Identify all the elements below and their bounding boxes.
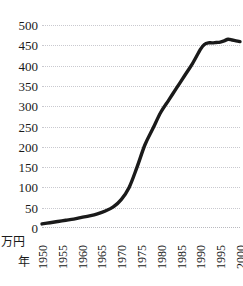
y-tick-label: 400 xyxy=(0,60,38,73)
plot-area xyxy=(42,25,240,228)
x-tick-label: 2000 xyxy=(233,231,243,275)
x-tick-label: 1970 xyxy=(114,231,128,275)
y-tick-label: 200 xyxy=(0,141,38,154)
x-tick-label: 1985 xyxy=(174,231,188,275)
figure-container: 500450400350300250200150100500 195019551… xyxy=(0,0,243,286)
x-tick-label: 1995 xyxy=(213,231,227,275)
x-tick-label: 1955 xyxy=(55,231,69,275)
y-tick-label: 450 xyxy=(0,39,38,52)
x-tick-label: 1975 xyxy=(134,231,148,275)
y-tick-label: 500 xyxy=(0,19,38,32)
x-tick-label: 1950 xyxy=(35,231,49,275)
x-axis-unit-label: 年 xyxy=(18,256,30,268)
x-tick-label: 1960 xyxy=(75,231,89,275)
y-tick-label: 100 xyxy=(0,181,38,194)
y-tick-label: 300 xyxy=(0,100,38,113)
x-tick-label: 1965 xyxy=(94,231,108,275)
data-series-line xyxy=(42,25,240,228)
x-tick-label: 1980 xyxy=(154,231,168,275)
y-tick-label: 50 xyxy=(0,202,38,215)
y-tick-label: 150 xyxy=(0,161,38,174)
x-tick-label: 1990 xyxy=(193,231,207,275)
caption-bottom-cropped xyxy=(0,270,243,286)
y-tick-label: 350 xyxy=(0,80,38,93)
y-tick-label: 250 xyxy=(0,121,38,134)
y-tick-label: 0 xyxy=(0,222,38,235)
y-axis-unit-label: 万円 xyxy=(1,236,25,248)
